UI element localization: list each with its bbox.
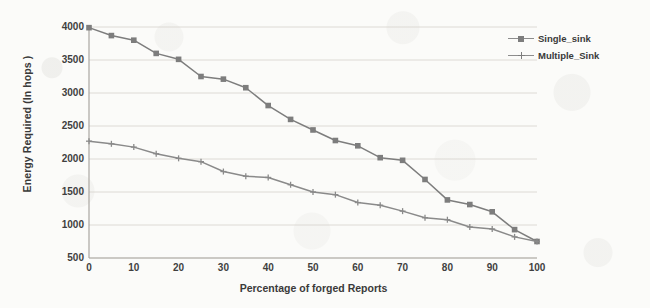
x-tick-label: 50 bbox=[293, 262, 333, 273]
x-tick-label: 80 bbox=[427, 262, 467, 273]
x-tick-label: 100 bbox=[517, 262, 557, 273]
legend-swatch-cross-icon bbox=[508, 51, 534, 61]
x-tick-label: 40 bbox=[248, 262, 288, 273]
x-tick-label: 10 bbox=[114, 262, 154, 273]
x-tick-label: 30 bbox=[203, 262, 243, 273]
legend-label-single-sink: Single_sink bbox=[538, 33, 591, 44]
x-tick-label: 60 bbox=[338, 262, 378, 273]
legend-item-multiple-sink[interactable]: Multiple_Sink bbox=[508, 47, 599, 64]
legend-swatch-square-icon bbox=[508, 34, 534, 44]
x-axis-title: Percentage of forged Reports bbox=[89, 282, 538, 294]
chart-legend: Single_sink Multiple_Sink bbox=[508, 30, 599, 64]
x-tick-label: 0 bbox=[69, 262, 109, 273]
legend-label-multiple-sink: Multiple_Sink bbox=[538, 50, 599, 61]
chart-figure: 5001000150020002500300035004000 01020304… bbox=[0, 0, 650, 308]
legend-item-single-sink[interactable]: Single_sink bbox=[508, 30, 599, 47]
x-tick-label: 70 bbox=[383, 262, 423, 273]
x-tick-label: 20 bbox=[159, 262, 199, 273]
x-tick-label: 90 bbox=[472, 262, 512, 273]
y-axis-title: Energy Required (In hops ) bbox=[21, 11, 33, 237]
